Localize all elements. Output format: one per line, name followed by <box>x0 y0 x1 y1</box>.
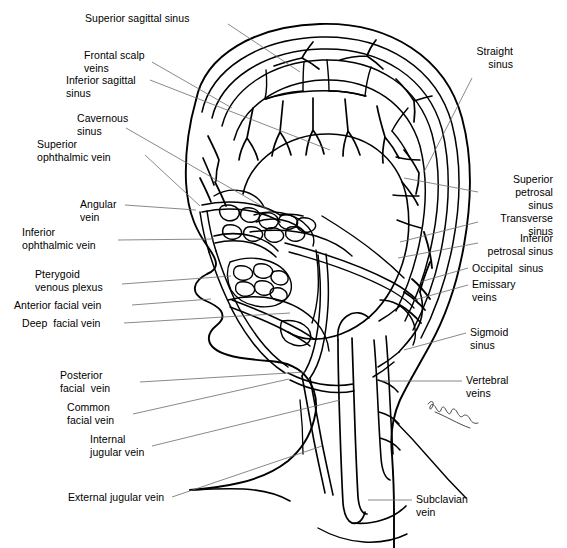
leader-superior-ophthalmic-vein <box>145 155 200 206</box>
neck-anterior-outline <box>190 489 290 501</box>
label-angular-vein: Angular vein <box>80 198 117 224</box>
label-common-facial-vein: Common facial vein <box>67 401 114 427</box>
label-vertebral-veins: Vertebral veins <box>466 374 508 400</box>
leader-superior-sagittal-sinus <box>228 24 300 72</box>
bridging-veins-lacunae <box>274 40 432 205</box>
label-superior-ophthalmic-vein: Superior ophthalmic vein <box>37 138 111 164</box>
leader-posterior-facial-vein <box>140 372 305 382</box>
frontal-scalp-veins <box>200 136 226 206</box>
leader-straight-sinus <box>424 78 472 172</box>
leader-cavernous-sinus <box>126 128 272 212</box>
cerebrum-outline <box>243 134 409 339</box>
label-cavernous-sinus: Cavernous sinus <box>77 112 128 138</box>
leader-common-facial-vein <box>133 379 289 414</box>
label-external-jugular-vein: External jugular vein <box>68 491 164 504</box>
label-deep-facial-vein: Deep facial vein <box>22 317 100 330</box>
label-subclavian-vein: Subclavian vein <box>416 493 468 519</box>
label-sigmoid-sinus: Sigmoid sinus <box>470 326 508 352</box>
label-anterior-facial-vein: Anterior facial vein <box>14 299 101 312</box>
sinus-lacunae-walls <box>265 60 421 228</box>
label-inferior-petrosal-sinus: Inferior petrosal sinus <box>450 232 553 258</box>
mandible-ramus <box>312 250 318 323</box>
label-superior-sagittal-sinus: Superior sagittal sinus <box>85 12 189 25</box>
label-inferior-sagittal-sinus: Inferior sagittal sinus <box>66 74 136 100</box>
label-posterior-facial-vein: Posterior facial vein <box>60 369 110 395</box>
label-internal-jugular-vein: Internal jugular vein <box>90 433 144 459</box>
artist-signature <box>428 401 478 428</box>
orbital-vein-network <box>200 202 280 257</box>
common-facial-vein <box>288 373 354 393</box>
diagram-page: Superior sagittal sinus Frontal scalp ve… <box>0 0 567 548</box>
label-occipital-sinus: Occipital sinus <box>472 262 543 275</box>
jugular-bulb <box>338 313 369 340</box>
external-jugular-vein <box>302 376 333 495</box>
label-pterygoid-venous-plexus: Pterygoid venous plexus <box>35 268 103 294</box>
label-straight-sinus: Straight sinus <box>440 45 513 71</box>
leader-frontal-scalp-veins <box>152 62 232 108</box>
internal-jugular-vein <box>338 338 367 523</box>
leader-lines <box>118 24 478 500</box>
leader-superior-petrosal-sinus <box>404 178 478 192</box>
pterygoid-venous-plexus <box>227 258 291 306</box>
posterior-facial-vein <box>302 254 328 378</box>
bridging-veins-superior <box>239 98 399 163</box>
leader-anterior-facial-vein <box>132 299 211 305</box>
label-emissary-veins: Emissary veins <box>472 278 516 304</box>
label-superior-petrosal-sinus: Superior petrosal sinus <box>468 173 553 212</box>
label-inferior-ophthalmic-vein: Inferior ophthalmic vein <box>22 226 96 252</box>
leader-internal-jugular-vein <box>152 400 340 446</box>
label-frontal-scalp-veins: Frontal scalp veins <box>84 49 145 75</box>
shoulder-outline <box>394 420 466 498</box>
scalp-outline <box>196 24 470 548</box>
leader-pterygoid-plexus <box>122 276 231 284</box>
leader-inferior-ophthalmic-vein <box>118 239 214 240</box>
occipital-veins <box>400 232 432 323</box>
leader-angular-vein <box>125 205 196 210</box>
